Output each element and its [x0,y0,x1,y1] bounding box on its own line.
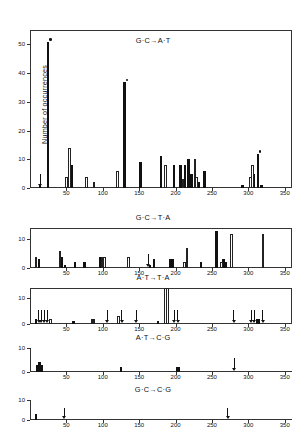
x-tick-label: 250 [207,190,217,196]
single-occurrence-arrow [176,310,180,323]
bar-filled [120,367,122,372]
arrow-head [62,416,66,419]
bar-filled [260,185,262,188]
arrow-shaft [227,408,228,416]
y-axis [30,400,31,420]
bar-open [182,179,185,188]
x-tick-label: 50 [63,190,70,196]
bar-open [93,182,96,188]
arrow-head [232,368,236,371]
y-tick-label: 40 [18,70,25,76]
x-tick-label: 300 [243,326,253,332]
panel-title: G·C→A·T [136,36,171,45]
y-tick-label: 10 [18,345,25,351]
y-tick [27,188,30,189]
x-tick-label: 300 [243,422,253,428]
y-tick-label: 0 [22,265,25,271]
bar-filled [47,42,49,189]
y-tick [27,372,30,373]
bar-filled [200,262,202,268]
x-axis [30,419,292,420]
y-tick-label: 10 [18,397,25,403]
y-tick-label: 10 [18,236,25,242]
bar-open [164,165,167,188]
x-tick-label: 200 [171,326,181,332]
y-tick-label: 30 [18,99,25,105]
y-tick [27,239,30,240]
bar-filled [38,259,40,268]
bar-open [35,257,38,268]
arrow-head [105,320,109,323]
y-tick-label: 0 [22,369,25,375]
bar-open [251,165,254,188]
y-tick [27,102,30,103]
bar-filled [257,154,259,188]
bar-filled [198,182,200,188]
single-occurrence-arrow [45,310,49,323]
y-tick [27,400,30,401]
bar-open [68,148,71,188]
bar-open [59,251,62,268]
arrow-head [134,320,138,323]
y-tick [27,268,30,269]
bar-filled [173,165,175,188]
y-axis [30,348,31,372]
bar-open [220,262,223,268]
arrow-head [38,184,42,187]
bar-filled [139,162,141,188]
bar-filled [241,185,243,188]
x-tick-label: 250 [207,326,217,332]
arrow-shaft [107,310,108,320]
x-tick-label: 250 [207,422,217,428]
y-tick [27,298,30,299]
arrow-head [176,320,180,323]
x-tick-label: 50 [63,270,70,276]
y-tick [27,73,30,74]
x-tick-label: 200 [171,270,181,276]
x-tick-label: 100 [98,270,108,276]
single-occurrence-arrow [261,310,265,323]
bar-filled [72,321,74,324]
x-tick-label: 200 [171,190,181,196]
arrow-shaft [148,254,149,264]
single-occurrence-arrow [120,310,124,323]
arrow-head [45,320,49,323]
bar-open [127,257,130,268]
x-tick-label: 150 [134,422,144,428]
x-tick-label: 200 [171,374,181,380]
bar-filled [190,174,192,188]
x-tick-label: 150 [134,190,144,196]
arrow-head [120,320,124,323]
y-axis [30,228,31,268]
bar-filled [123,82,125,188]
panel-top-rule [30,288,292,289]
x-tick-label: 150 [134,374,144,380]
single-occurrence-arrow [232,358,236,371]
y-axis [30,30,31,188]
bar-filled [178,367,180,372]
bar-filled [225,262,227,268]
y-tick-label: 0 [22,417,25,423]
y-tick [27,348,30,349]
x-tick-label: 100 [98,374,108,380]
y-tick-label: 50 [18,41,25,47]
panel-3: 50100150200250300350010A·T→T·A [30,288,292,324]
single-occurrence-arrow [62,408,66,419]
x-tick-label: 250 [207,270,217,276]
arrow-shaft [234,358,235,368]
arrow-shaft [121,310,122,320]
bar-filled [203,171,205,188]
bar-open [186,248,189,268]
y-tick [27,420,30,421]
x-tick-label: 150 [134,326,144,332]
bar-filled [70,165,72,188]
y-tick [27,131,30,132]
arrow-head [261,320,265,323]
arrow-shaft [262,310,263,320]
y-tick-label: 10 [18,295,25,301]
bar-open [195,177,198,188]
y-axis [30,288,31,324]
bar-filled [64,265,66,268]
bar-open [103,257,106,268]
x-tick-label: 250 [207,374,217,380]
